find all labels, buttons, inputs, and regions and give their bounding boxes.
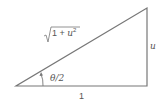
hypotenuse-label: 1 + u2 xyxy=(52,27,76,38)
angle-arc xyxy=(41,74,43,86)
angle-label: θ/2 xyxy=(50,74,64,83)
hypotenuse-exponent: 2 xyxy=(73,27,76,33)
adjacent-side-label: 1 xyxy=(79,92,84,101)
hypotenuse-prefix: 1 + xyxy=(52,28,67,38)
triangle-outline xyxy=(16,8,147,86)
triangle-diagram: 1 + u2 u 1 θ/2 xyxy=(0,0,162,109)
opposite-side-label: u xyxy=(150,42,156,51)
angle-arrowhead-icon xyxy=(40,72,44,76)
